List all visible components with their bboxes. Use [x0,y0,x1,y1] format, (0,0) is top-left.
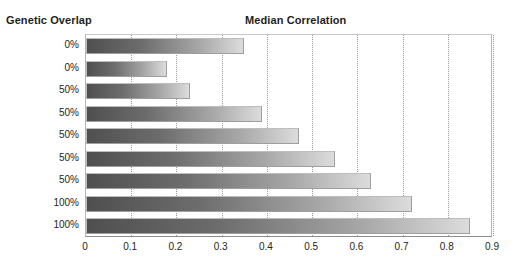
category-axis-labels: 0%0%50%50%50%50%50%100%100% [0,34,79,237]
value-tick-label: 0.8 [440,241,454,252]
category-label: 0% [65,34,79,57]
bar-row [86,103,491,126]
bar-row [86,58,491,81]
value-tick-label: 0.9 [485,241,499,252]
category-label: 100% [53,214,79,237]
bar[interactable] [86,61,167,77]
bar-row [86,148,491,171]
value-tick-label: 0.3 [214,241,228,252]
plot-area [85,34,492,237]
category-label: 50% [59,147,79,170]
category-label: 50% [59,169,79,192]
bar[interactable] [86,196,412,212]
median-correlation-chart: Genetic Overlap Median Correlation 0%0%5… [0,0,522,265]
value-tick-label: 0.1 [123,241,137,252]
gridline [493,35,494,236]
category-label: 0% [65,57,79,80]
value-tick-label: 0.5 [304,241,318,252]
category-label: 50% [59,79,79,102]
bar[interactable] [86,38,244,54]
bar-row [86,170,491,193]
bar[interactable] [86,151,335,167]
category-label: 50% [59,124,79,147]
bar-row [86,193,491,216]
genetic-overlap-axis-title: Genetic Overlap [6,14,92,26]
chart-title: Median Correlation [245,14,346,26]
bar[interactable] [86,106,262,122]
bar-row [86,80,491,103]
value-tick-label: 0.7 [395,241,409,252]
value-tick-label: 0.4 [259,241,273,252]
bar-row [86,215,491,238]
bar-row [86,125,491,148]
bar[interactable] [86,83,190,99]
bar[interactable] [86,173,371,189]
category-label: 50% [59,102,79,125]
bar-row [86,35,491,58]
value-tick-label: 0 [82,241,88,252]
bar[interactable] [86,128,299,144]
value-axis-labels: 00.10.20.30.40.50.60.70.80.9 [0,241,522,261]
value-tick-label: 0.6 [349,241,363,252]
bar[interactable] [86,218,470,234]
bars-layer [86,35,491,236]
category-label: 100% [53,192,79,215]
value-tick-label: 0.2 [168,241,182,252]
